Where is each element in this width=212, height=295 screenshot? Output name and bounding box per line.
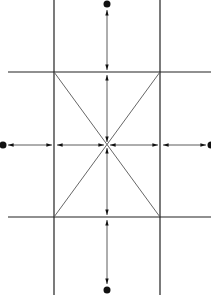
force-diagram bbox=[0, 0, 211, 295]
dot-right bbox=[208, 142, 212, 149]
dot-top bbox=[104, 1, 111, 8]
dot-bottom bbox=[104, 287, 111, 294]
arrows bbox=[8, 10, 206, 284]
dot-left bbox=[0, 142, 7, 149]
